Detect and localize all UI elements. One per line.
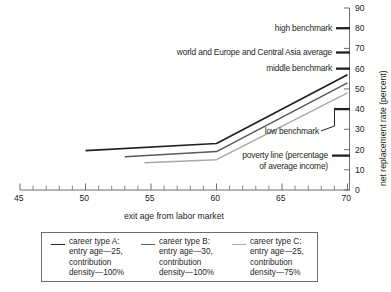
- y-axis-ticks: [344, 8, 350, 190]
- y-axis-title: net replacement rate (percent): [378, 70, 388, 186]
- annotation-high-benchmark: high benchmark: [130, 23, 332, 33]
- legend-label-a-line4: density—100%: [69, 268, 124, 278]
- x-axis-minor-ticks: [33, 186, 334, 191]
- legend-label-a-line3: contribution: [69, 258, 124, 268]
- annotation-low-benchmark: low benchmark: [160, 126, 319, 136]
- y-tick-label-0: 0: [355, 185, 360, 195]
- reference-marker-low-benchmark: [321, 109, 350, 131]
- legend-swatch-career-type-c: [232, 244, 246, 245]
- y-tick-label-30: 30: [355, 124, 365, 134]
- legend-label-a-line1: career type A:: [69, 237, 124, 247]
- legend-label-c-line4: density—75%: [250, 268, 304, 278]
- annotation-middle-benchmark: middle benchmark: [130, 63, 332, 73]
- y-tick-label-60: 60: [355, 64, 365, 74]
- series-line-career-type-b: [125, 83, 348, 157]
- annotation-poverty-line-line2: of average income): [120, 161, 328, 171]
- chart-container: high benchmark world and Europe and Cent…: [0, 0, 391, 292]
- y-tick-label-90: 90: [355, 3, 365, 13]
- legend-label-b-line2: entry age—30,: [159, 247, 214, 257]
- x-tick-label-45: 45: [14, 193, 24, 203]
- annotation-world-average: world and Europe and Central Asia averag…: [60, 47, 332, 57]
- legend-label-c-line3: contribution: [250, 258, 304, 268]
- x-tick-label-65: 65: [276, 193, 286, 203]
- y-tick-label-40: 40: [355, 104, 365, 114]
- x-axis-title: exit age from labor market: [124, 211, 224, 221]
- x-tick-label-60: 60: [211, 193, 221, 203]
- y-tick-label-80: 80: [355, 23, 365, 33]
- legend-swatch-career-type-b: [141, 244, 155, 245]
- legend-label-a-line2: entry age—25,: [69, 247, 124, 257]
- legend-label-b-line3: contribution: [159, 258, 214, 268]
- y-tick-label-10: 10: [355, 165, 365, 175]
- y-tick-label-70: 70: [355, 43, 365, 53]
- y-tick-label-50: 50: [355, 84, 365, 94]
- chart-legend: career type A: entry age—25, contributio…: [41, 232, 318, 282]
- x-tick-label-70: 70: [342, 193, 352, 203]
- annotation-poverty-line-line1: poverty line (percentage: [120, 150, 328, 160]
- x-axis-major-ticks: [20, 184, 348, 191]
- legend-label-b-line4: density—100%: [159, 268, 214, 278]
- legend-label-b-line1: career type B:: [159, 237, 214, 247]
- legend-label-c-line2: entry age—25,: [250, 247, 304, 257]
- legend-label-c-line1: career type C:: [250, 237, 304, 247]
- x-tick-label-55: 55: [145, 193, 155, 203]
- y-tick-label-20: 20: [355, 145, 365, 155]
- x-tick-label-50: 50: [80, 193, 90, 203]
- legend-swatch-career-type-a: [51, 244, 65, 245]
